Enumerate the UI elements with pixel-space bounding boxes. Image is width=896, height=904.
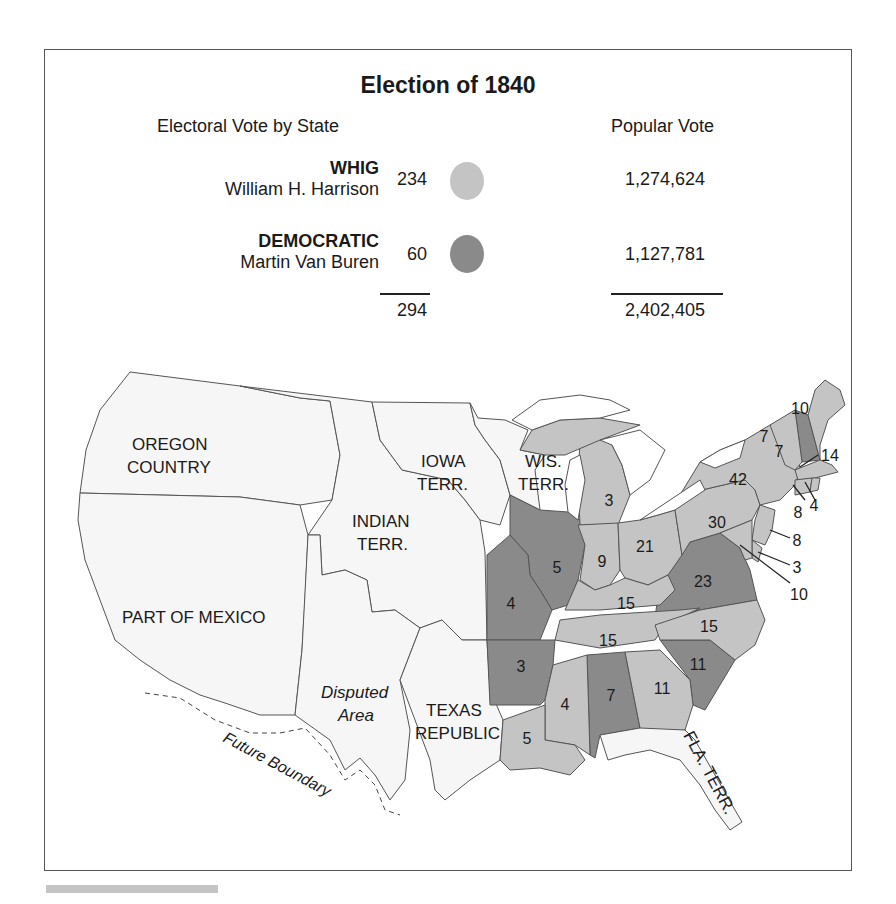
label-wis-1: WIS. — [525, 452, 562, 471]
votes-delaware: 3 — [793, 559, 802, 576]
label-indian-2: TERR. — [357, 535, 408, 554]
label-wis-2: TERR. — [518, 475, 569, 494]
votes-south-carolina: 11 — [690, 656, 707, 673]
votes-arkansas: 3 — [517, 658, 526, 675]
region-oregon-country — [80, 372, 340, 505]
votes-pennsylvania: 30 — [708, 514, 726, 531]
label-texas-2: REPUBLIC — [415, 724, 500, 743]
votes-illinois: 5 — [553, 559, 562, 576]
state-connecticut — [795, 478, 812, 495]
votes-indiana: 9 — [598, 553, 607, 570]
label-indian-1: INDIAN — [352, 512, 410, 531]
votes-vermont: 7 — [760, 428, 769, 445]
state-rhode-island — [810, 478, 820, 492]
votes-new-york: 42 — [729, 471, 747, 488]
label-iowa-2: TERR. — [417, 475, 468, 494]
votes-maine: 10 — [791, 400, 809, 417]
label-future-boundary: Future Boundary — [221, 729, 335, 800]
votes-north-carolina: 15 — [700, 618, 718, 635]
votes-virginia: 23 — [694, 573, 712, 590]
votes-michigan: 3 — [605, 492, 614, 509]
votes-louisiana: 5 — [523, 730, 532, 747]
votes-new-jersey: 8 — [793, 532, 802, 549]
votes-massachusetts: 14 — [821, 447, 839, 464]
votes-mississippi: 4 — [561, 696, 570, 713]
label-mexico: PART OF MEXICO — [122, 608, 266, 627]
bottom-bar — [46, 885, 218, 893]
votes-ohio: 21 — [636, 538, 654, 555]
votes-missouri: 4 — [507, 595, 516, 612]
label-oregon-1: OREGON — [132, 435, 208, 454]
votes-connecticut: 8 — [794, 504, 803, 521]
votes-new-hampshire: 7 — [775, 443, 784, 460]
votes-rhode-island: 4 — [810, 497, 819, 514]
votes-maryland: 10 — [790, 586, 808, 603]
votes-georgia: 11 — [654, 680, 671, 697]
votes-alabama: 7 — [607, 687, 616, 704]
label-disputed-1: Disputed — [321, 683, 389, 702]
label-florida: FLA. TERR. — [679, 728, 739, 818]
votes-tennessee: 15 — [599, 632, 617, 649]
region-part-of-mexico — [78, 493, 308, 715]
label-oregon-2: COUNTRY — [127, 458, 211, 477]
label-iowa-1: IOWA — [421, 452, 466, 471]
label-disputed-2: Area — [337, 706, 374, 725]
us-map-1840: OREGON COUNTRY IOWA TERR. WIS. TERR. IND… — [0, 0, 896, 904]
votes-kentucky: 15 — [617, 595, 635, 612]
label-texas-1: TEXAS — [426, 701, 482, 720]
